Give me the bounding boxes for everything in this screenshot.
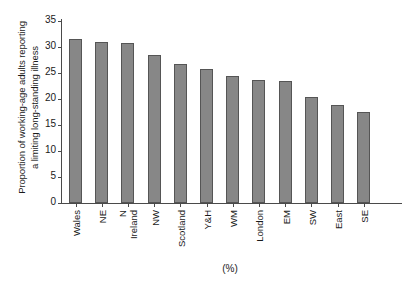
x-axis-tick-label-line: London bbox=[254, 210, 265, 242]
x-axis-tick-label: NIreland bbox=[121, 210, 135, 270]
y-axis-tick-mark bbox=[58, 151, 62, 152]
bar bbox=[121, 43, 134, 203]
x-axis-tick-label-line: Ireland bbox=[128, 210, 139, 239]
x-axis-tick-label: NW bbox=[148, 210, 162, 270]
y-axis-tick-mark bbox=[58, 125, 62, 126]
x-axis-tick-label-line: EM bbox=[280, 210, 291, 224]
y-axis-tick-label: 30 bbox=[45, 40, 56, 51]
x-axis-tick-label-line: NE bbox=[97, 210, 108, 223]
y-axis-title: Proportion of working-age adults reporti… bbox=[8, 0, 48, 215]
x-axis-tick-label: London bbox=[252, 210, 266, 270]
y-axis-tick-mark bbox=[58, 99, 62, 100]
y-axis-tick-mark bbox=[58, 177, 62, 178]
x-axis-tick-label: SW bbox=[305, 210, 319, 270]
x-axis-tick-label-line: N bbox=[117, 210, 128, 239]
y-axis-tick-label: 0 bbox=[50, 196, 56, 207]
y-axis-tick-label: 35 bbox=[45, 14, 56, 25]
y-axis-title-line-2: a limiting long-standing illness bbox=[28, 21, 41, 194]
bar bbox=[95, 42, 108, 203]
x-axis-tick-mark bbox=[259, 203, 260, 207]
y-axis-tick-mark bbox=[58, 47, 62, 48]
y-axis-tick-mark bbox=[58, 203, 62, 204]
y-axis-tick-label: 20 bbox=[45, 92, 56, 103]
bar bbox=[279, 81, 292, 203]
x-axis-tick-label-line: SE bbox=[359, 210, 370, 223]
y-axis-tick-label: 25 bbox=[45, 66, 56, 77]
x-axis-tick-mark bbox=[154, 203, 155, 207]
x-axis-tick-mark bbox=[76, 203, 77, 207]
x-axis-tick-mark bbox=[285, 203, 286, 207]
x-axis-tick-mark bbox=[207, 203, 208, 207]
y-axis-tick-label: 10 bbox=[45, 144, 56, 155]
x-axis-tick-mark bbox=[180, 203, 181, 207]
x-axis-tick-mark bbox=[128, 203, 129, 207]
y-axis-tick-label: 5 bbox=[50, 170, 56, 181]
x-axis-line bbox=[61, 203, 402, 204]
x-axis-tick-label: Y&H bbox=[200, 210, 214, 270]
x-axis-tick-label: Scotland bbox=[174, 210, 188, 270]
x-axis-tick-mark bbox=[102, 203, 103, 207]
bar bbox=[252, 80, 265, 203]
x-axis-tick-label-line: Y&H bbox=[202, 210, 213, 230]
bar bbox=[174, 64, 187, 203]
x-axis-tick-mark bbox=[338, 203, 339, 207]
bar-chart-figure: Proportion of working-age adults reporti… bbox=[0, 0, 410, 290]
bar bbox=[357, 112, 370, 203]
bar bbox=[200, 69, 213, 203]
bar bbox=[226, 76, 239, 203]
x-axis-tick-mark bbox=[233, 203, 234, 207]
x-axis-tick-label-line: SW bbox=[306, 210, 317, 225]
x-axis-tick-mark bbox=[311, 203, 312, 207]
x-axis-tick-label: NE bbox=[95, 210, 109, 270]
bar bbox=[331, 105, 344, 203]
y-axis-tick-mark bbox=[58, 21, 62, 22]
x-axis-tick-label-line: Wales bbox=[71, 210, 82, 236]
x-axis-tick-label-line: NW bbox=[149, 210, 160, 226]
x-axis-tick-label: Wales bbox=[69, 210, 83, 270]
x-axis-tick-label-line: East bbox=[333, 210, 344, 229]
x-axis-tick-label: EM bbox=[279, 210, 293, 270]
bar bbox=[305, 97, 318, 203]
bar bbox=[148, 55, 161, 203]
x-axis-tick-label: East bbox=[331, 210, 345, 270]
y-axis-tick-label: 15 bbox=[45, 118, 56, 129]
x-axis-tick-label: SE bbox=[357, 210, 371, 270]
y-axis-tick-mark bbox=[58, 73, 62, 74]
plot-area: 05101520253035 bbox=[62, 21, 402, 203]
bar bbox=[69, 39, 82, 203]
x-axis-tick-mark bbox=[364, 203, 365, 207]
x-axis-tick-label-line: WM bbox=[228, 210, 239, 227]
x-axis-tick-label: WM bbox=[226, 210, 240, 270]
y-axis-title-line-1: Proportion of working-age adults reporti… bbox=[16, 21, 29, 194]
x-axis-tick-label-line: Scotland bbox=[175, 210, 186, 247]
